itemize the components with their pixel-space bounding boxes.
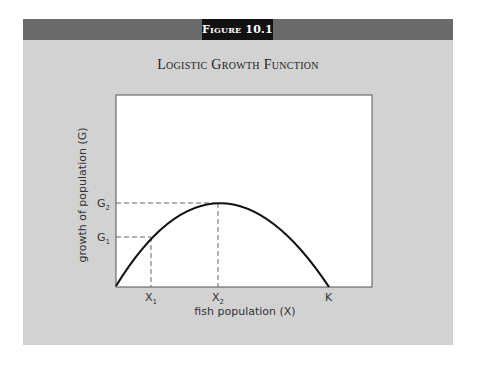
y-tick-g2: G2 xyxy=(97,197,110,212)
plot-frame xyxy=(116,95,372,287)
x-tick-x1: X1 xyxy=(145,291,157,306)
x-axis-label: fish population (X) xyxy=(0,305,477,318)
y-axis-label: growth of population (G) xyxy=(76,120,89,270)
y-tick-g1: G1 xyxy=(97,231,110,246)
x-tick-k: K xyxy=(325,291,333,304)
x-tick-x2: X2 xyxy=(212,291,224,306)
